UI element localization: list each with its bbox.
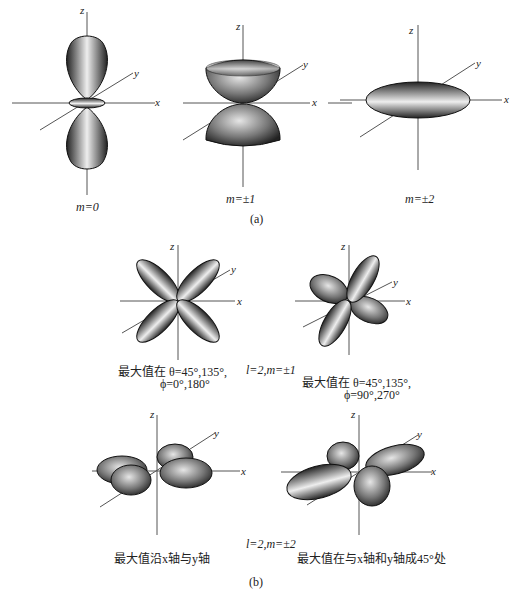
panel-b1b xyxy=(295,245,405,355)
x-axis-label: x xyxy=(406,295,411,307)
y-axis-label: y xyxy=(134,67,139,79)
upper-lobe xyxy=(67,36,108,100)
caption-b1b-line2: ϕ=90°,270° xyxy=(344,388,400,403)
caption-m1: m=±1 xyxy=(226,192,255,207)
y-axis-label: y xyxy=(303,58,308,70)
z-axis-label: z xyxy=(80,4,84,16)
lower-lobe xyxy=(67,107,108,169)
caption-m2: m=±2 xyxy=(405,192,434,207)
z-axis-label: z xyxy=(341,240,345,252)
panel-m0 xyxy=(12,12,155,195)
y-axis-label: y xyxy=(231,263,236,275)
z-axis-label: z xyxy=(150,408,154,420)
x-axis-label: x xyxy=(237,295,242,307)
y-axis-label: y xyxy=(476,57,481,69)
part-b-label: (b) xyxy=(249,575,263,590)
x-axis-label: x xyxy=(241,465,246,477)
x-axis-label: x xyxy=(431,465,436,477)
x-axis-label: x xyxy=(312,96,317,108)
y-axis-label: y xyxy=(214,427,219,439)
caption-b1a-line2: ϕ=0°,180° xyxy=(160,377,210,392)
y-axis-label: y xyxy=(417,428,422,440)
orbital-figure xyxy=(0,0,521,595)
caption-m0: m=0 xyxy=(76,200,99,215)
torus-ring xyxy=(69,98,105,108)
group-label-l2-m1: l=2,m=±1 xyxy=(246,363,296,378)
y-axis-label: y xyxy=(393,276,398,288)
z-axis-label: z xyxy=(170,240,174,252)
z-axis-label: z xyxy=(409,24,413,36)
panel-b1a xyxy=(120,245,235,360)
x-axis-label: x xyxy=(504,93,509,105)
caption-b2a: 最大值沿x轴与y轴 xyxy=(114,549,210,567)
z-axis-label: z xyxy=(351,408,355,420)
z-axis-label: z xyxy=(236,20,240,32)
panel-b2b xyxy=(281,415,432,535)
group-label-l2-m2: l=2,m=±2 xyxy=(246,537,296,552)
panel-m2 xyxy=(340,25,502,170)
part-a-label: (a) xyxy=(250,212,263,227)
caption-b2b: 最大值在与x轴和y轴成45°处 xyxy=(297,549,446,567)
panel-m1 xyxy=(183,25,352,187)
x-axis-label: x xyxy=(155,96,160,108)
